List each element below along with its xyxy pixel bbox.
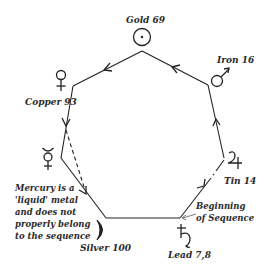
iron-label: Iron 16 xyxy=(217,56,254,65)
arrow-copper-mercury xyxy=(62,118,70,126)
edge-bypass-dashed xyxy=(66,130,85,190)
venus-icon xyxy=(57,71,66,92)
edge-iron-gold xyxy=(142,51,208,85)
mercury-icon xyxy=(43,148,54,170)
metal-sequence-diagram: Gold 69 Iron 16 Tin 14 Lead 7,8 Silver 1… xyxy=(0,0,267,271)
mars-icon xyxy=(212,68,230,87)
mercury-note: Mercury is a 'liquid' metal and does not… xyxy=(15,182,91,242)
edge-gold-copper xyxy=(73,51,142,86)
copper-label: Copper 93 xyxy=(25,98,77,107)
arrow-lead-tin xyxy=(197,179,205,188)
tin-label: Tin 14 xyxy=(224,177,256,186)
edge-tin-iron xyxy=(208,85,224,158)
lead-label: Lead 7,8 xyxy=(168,251,211,260)
beginning-pointer xyxy=(182,214,196,220)
saturn-icon xyxy=(177,224,190,247)
gold-label: Gold 69 xyxy=(126,16,165,25)
direction-arrows xyxy=(62,63,220,194)
silver-label: Silver 100 xyxy=(80,244,131,253)
sun-icon xyxy=(134,29,151,46)
jupiter-icon xyxy=(228,152,242,169)
beginning-of-sequence-label: Beginning of Sequence xyxy=(196,200,254,224)
moon-icon xyxy=(97,220,103,240)
